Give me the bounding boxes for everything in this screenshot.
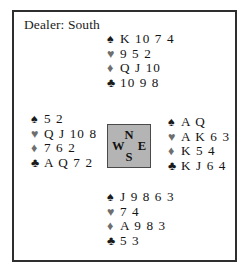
- hand-south-diamonds-row: ♦ A 9 8 3: [107, 219, 175, 234]
- hand-north-clubs: 10 9 8: [119, 76, 160, 91]
- hand-north-spades-row: ♠ K 10 7 4: [107, 32, 175, 47]
- hand-west-spades: 5 2: [43, 112, 64, 127]
- compass-south-label: S: [126, 151, 133, 164]
- hand-west: ♠ 5 2 ♥ Q J 10 8 ♦ 7 6 2 ♣ A Q 7 2: [31, 112, 97, 170]
- heart-icon: ♥: [31, 127, 43, 142]
- hand-south-hearts-row: ♥ 7 4: [107, 205, 175, 220]
- hand-north-hearts-row: ♥ 9 5 2: [107, 47, 175, 62]
- hand-east-hearts-row: ♥ A K 6 3: [168, 130, 230, 145]
- club-icon: ♣: [107, 76, 119, 91]
- heart-icon: ♥: [168, 130, 180, 145]
- club-icon: ♣: [107, 234, 119, 249]
- hand-west-diamonds-row: ♦ 7 6 2: [31, 141, 97, 156]
- spade-icon: ♠: [168, 115, 180, 130]
- compass-box: N W E S: [107, 124, 151, 168]
- spade-icon: ♠: [31, 112, 43, 127]
- hand-south-diamonds: A 9 8 3: [119, 219, 166, 234]
- hand-east-spades: A Q: [180, 115, 206, 130]
- hand-west-hearts: Q J 10 8: [43, 127, 97, 142]
- hand-south-clubs: 5 3: [119, 234, 140, 249]
- hand-east-spades-row: ♠ A Q: [168, 115, 230, 130]
- hand-south-clubs-row: ♣ 5 3: [107, 234, 175, 249]
- diamond-icon: ♦: [31, 141, 43, 156]
- hand-north: ♠ K 10 7 4 ♥ 9 5 2 ♦ Q J 10 ♣ 10 9 8: [107, 32, 175, 90]
- hand-west-clubs: A Q 7 2: [43, 156, 93, 171]
- bridge-diagram-frame: Dealer: South ♠ K 10 7 4 ♥ 9 5 2 ♦ Q J 1…: [12, 10, 237, 262]
- hand-north-spades: K 10 7 4: [119, 32, 175, 47]
- hand-west-spades-row: ♠ 5 2: [31, 112, 97, 127]
- hand-north-diamonds-row: ♦ Q J 10: [107, 61, 175, 76]
- club-icon: ♣: [31, 156, 43, 171]
- heart-icon: ♥: [107, 47, 119, 62]
- hand-south-spades: J 9 8 6 3: [119, 190, 175, 205]
- hand-east-diamonds-row: ♦ K 5 4: [168, 144, 230, 159]
- hand-south-hearts: 7 4: [119, 205, 140, 220]
- diamond-icon: ♦: [107, 219, 119, 234]
- compass-east-label: E: [138, 140, 146, 153]
- diamond-icon: ♦: [168, 144, 180, 159]
- compass-north-label: N: [124, 129, 133, 142]
- hand-north-clubs-row: ♣ 10 9 8: [107, 76, 175, 91]
- club-icon: ♣: [168, 159, 180, 174]
- hand-south: ♠ J 9 8 6 3 ♥ 7 4 ♦ A 9 8 3 ♣ 5 3: [107, 190, 175, 248]
- hand-east-diamonds: K 5 4: [180, 144, 216, 159]
- hand-west-diamonds: 7 6 2: [43, 141, 76, 156]
- heart-icon: ♥: [107, 205, 119, 220]
- hand-west-clubs-row: ♣ A Q 7 2: [31, 156, 97, 171]
- hand-north-diamonds: Q J 10: [119, 61, 161, 76]
- hand-east-clubs-row: ♣ K J 6 4: [168, 159, 230, 174]
- dealer-label: Dealer: South: [24, 17, 100, 33]
- hand-east: ♠ A Q ♥ A K 6 3 ♦ K 5 4 ♣ K J 6 4: [168, 115, 230, 173]
- hand-west-hearts-row: ♥ Q J 10 8: [31, 127, 97, 142]
- spade-icon: ♠: [107, 32, 119, 47]
- diamond-icon: ♦: [107, 61, 119, 76]
- hand-east-clubs: K J 6 4: [180, 159, 226, 174]
- compass-west-label: W: [112, 140, 125, 153]
- hand-north-hearts: 9 5 2: [119, 47, 152, 62]
- hand-south-spades-row: ♠ J 9 8 6 3: [107, 190, 175, 205]
- spade-icon: ♠: [107, 190, 119, 205]
- hand-east-hearts: A K 6 3: [180, 130, 230, 145]
